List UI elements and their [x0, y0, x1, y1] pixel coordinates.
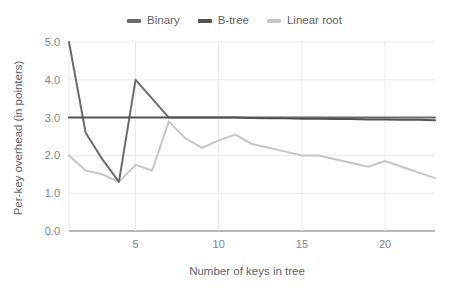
- y-tick-label: 1.0: [45, 187, 60, 199]
- y-tick-label: 3.0: [45, 112, 60, 124]
- x-tick-label: 15: [296, 238, 308, 250]
- y-tick-label: 4.0: [45, 74, 60, 86]
- x-axis-tick-labels: 5101520: [132, 238, 391, 250]
- x-axis-title: Number of keys in tree: [189, 265, 305, 277]
- y-axis-title: Per-key overhead (in pointers): [12, 60, 24, 215]
- y-tick-label: 0.0: [45, 225, 60, 237]
- x-tick-label: 5: [132, 238, 138, 250]
- chart-figure: Binary B-tree Linear root 0.01.02.03.04.…: [0, 0, 469, 298]
- plot-area: 0.01.02.03.04.05.0 5101520 Number of key…: [0, 0, 469, 298]
- data-series-group: [69, 42, 435, 182]
- series-line-binary: [69, 42, 435, 182]
- x-tick-label: 10: [213, 238, 225, 250]
- y-tick-label: 5.0: [45, 36, 60, 48]
- x-tick-label: 20: [379, 238, 391, 250]
- y-axis-tick-labels: 0.01.02.03.04.05.0: [45, 36, 60, 237]
- y-tick-label: 2.0: [45, 149, 60, 161]
- gridlines-horizontal: [69, 42, 435, 231]
